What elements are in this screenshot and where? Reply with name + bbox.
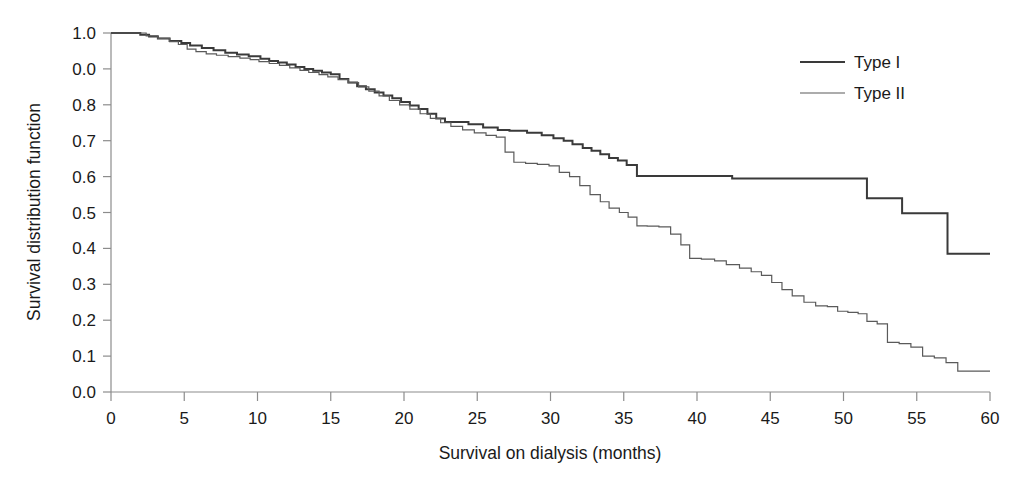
y-tick-label: 0.7 [72,132,96,151]
x-axis-title: Survival on dialysis (months) [439,443,662,463]
chart-legend: Type IType II [800,53,905,103]
x-axis-tick-labels: 051015202530354045505560 [106,409,999,428]
x-tick-label: 40 [688,409,707,428]
x-tick-label: 35 [614,409,633,428]
x-tick-label: 25 [468,409,487,428]
x-tick-label: 5 [180,409,189,428]
y-tick-label: 0.2 [72,311,96,330]
chart-canvas: 1.00.00.80.70.60.50.40.30.20.10.0 051015… [0,0,1029,485]
x-tick-label: 0 [106,409,115,428]
y-tick-label: 0.4 [72,239,96,258]
y-tick-label: 0.6 [72,168,96,187]
x-tick-label: 55 [907,409,926,428]
x-axis-tick-marks [111,392,990,401]
legend-label-1: Type I [854,53,900,72]
x-tick-label: 30 [541,409,560,428]
y-tick-label: 0.3 [72,275,96,294]
y-tick-label: 0.8 [72,96,96,115]
x-tick-label: 20 [395,409,414,428]
legend-label-2: Type II [854,84,905,103]
y-axis-tick-marks [103,33,111,392]
x-tick-label: 50 [834,409,853,428]
x-tick-label: 45 [761,409,780,428]
survival-chart-figure: 1.00.00.80.70.60.50.40.30.20.10.0 051015… [0,0,1029,485]
y-tick-label: 0.5 [72,204,96,223]
y-axis-tick-labels: 1.00.00.80.70.60.50.40.30.20.10.0 [72,24,96,402]
x-tick-label: 10 [248,409,267,428]
y-tick-label: 0.0 [72,60,96,79]
y-axis-title: Survival distribution function [24,103,44,321]
y-tick-label: 0.1 [72,347,96,366]
y-tick-label: 0.0 [72,383,96,402]
x-tick-label: 60 [981,409,1000,428]
y-tick-label: 1.0 [72,24,96,43]
x-tick-label: 15 [321,409,340,428]
